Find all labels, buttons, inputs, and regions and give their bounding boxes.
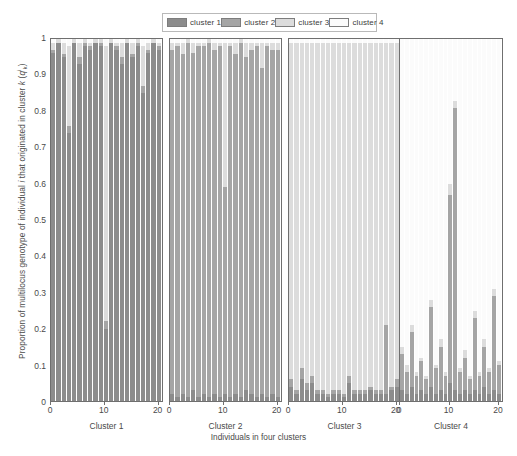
bar-segment-cluster-4 <box>434 39 438 365</box>
bar-segment-cluster-1 <box>270 394 274 401</box>
bar-segment-cluster-3 <box>310 43 314 376</box>
bar-segment-cluster-1 <box>497 394 501 401</box>
bar-segment-cluster-1 <box>99 46 103 401</box>
bar-segment-cluster-1 <box>294 394 298 401</box>
bar-segment-cluster-3 <box>326 43 330 394</box>
bar-segment-cluster-2 <box>487 372 491 394</box>
x-tick-label: 10 <box>444 405 453 415</box>
bar-segment-cluster-4 <box>405 39 409 365</box>
bar-segment-cluster-1 <box>218 397 222 401</box>
x-tick-label: 0 <box>167 405 172 415</box>
bar-segment-cluster-1 <box>207 397 211 401</box>
bar-segment-cluster-2 <box>239 43 243 398</box>
individual-bar[interactable] <box>276 39 281 401</box>
bar-segment-cluster-1 <box>151 43 155 401</box>
bar-segment-cluster-3 <box>482 339 486 346</box>
bar-segment-cluster-1 <box>492 390 496 401</box>
bar-segment-cluster-3 <box>77 43 81 57</box>
bar-segment-cluster-1 <box>415 394 419 401</box>
x-tick-mark <box>104 401 105 405</box>
structure-plot-figure: cluster 1 cluster 2 cluster 3 cluster 4 … <box>0 0 517 456</box>
bar-segment-cluster-3 <box>384 43 388 325</box>
bar-segment-cluster-2 <box>228 46 232 397</box>
x-tick-mark <box>288 401 289 405</box>
bar-segment-cluster-1 <box>191 390 195 401</box>
bar-segment-cluster-2 <box>244 57 248 390</box>
bar-segment-cluster-4 <box>468 39 472 376</box>
bar-segment-cluster-4 <box>444 39 448 372</box>
bar-segment-cluster-1 <box>109 43 113 401</box>
bar-segment-cluster-2 <box>67 126 71 133</box>
individual-bar[interactable] <box>157 39 162 401</box>
bar-segment-cluster-1 <box>77 64 81 401</box>
bar-segment-cluster-3 <box>181 43 185 54</box>
bar-segment-cluster-2 <box>429 307 433 387</box>
bar-segment-cluster-1 <box>239 397 243 401</box>
panel-title-2: Cluster 2 <box>208 421 242 431</box>
bar-segment-cluster-3 <box>400 347 404 354</box>
bar-segment-cluster-2 <box>497 365 501 394</box>
bar-segment-cluster-3 <box>331 43 335 391</box>
y-axis-label-sup-i: i <box>16 69 22 70</box>
bar-segment-cluster-2 <box>492 296 496 390</box>
bar-segment-cluster-2 <box>276 50 280 398</box>
bar-segment-cluster-1 <box>384 394 388 401</box>
bar-segment-cluster-1 <box>363 394 367 401</box>
bar-segment-cluster-3 <box>374 43 378 391</box>
bar-segment-cluster-1 <box>434 394 438 401</box>
bar-segment-cluster-3 <box>405 365 409 372</box>
legend-swatch-cluster-3 <box>275 18 295 27</box>
bar-segment-cluster-1 <box>337 394 341 401</box>
legend-entry-cluster-2[interactable]: cluster 2 <box>221 18 275 27</box>
panel-title-4: Cluster 4 <box>434 421 468 431</box>
bar-segment-cluster-1 <box>389 390 393 401</box>
bar-segment-cluster-2 <box>170 50 174 394</box>
bar-segment-cluster-1 <box>352 394 356 401</box>
x-tick-label: 10 <box>337 405 346 415</box>
bar-segment-cluster-1 <box>255 397 259 401</box>
bar-segment-cluster-1 <box>104 329 108 401</box>
bar-segment-cluster-1 <box>170 394 174 401</box>
bar-segment-cluster-2 <box>202 46 206 394</box>
bar-segment-cluster-1 <box>181 394 185 401</box>
bar-segment-cluster-1 <box>419 390 423 401</box>
bar-segment-cluster-3 <box>321 43 325 391</box>
legend-entry-cluster-1[interactable]: cluster 1 <box>167 18 221 27</box>
bar-segment-cluster-1 <box>473 390 477 401</box>
bar-segment-cluster-4 <box>453 39 457 101</box>
bar-segment-cluster-1 <box>453 390 457 401</box>
bar-segment-cluster-2 <box>478 376 482 394</box>
panel-title-3: Cluster 3 <box>327 421 361 431</box>
legend-entry-cluster-3[interactable]: cluster 3 <box>275 18 329 27</box>
bar-segment-cluster-1 <box>146 53 150 401</box>
bar-segment-cluster-1 <box>175 397 179 401</box>
bar-segment-cluster-3 <box>146 43 150 50</box>
bar-segment-cluster-3 <box>223 43 227 188</box>
legend-label-cluster-1: cluster 1 <box>190 18 221 27</box>
legend-entry-cluster-4[interactable]: cluster 4 <box>329 18 383 27</box>
bar-segment-cluster-2 <box>186 43 190 398</box>
individual-bar[interactable] <box>497 39 502 401</box>
bar-segment-cluster-1 <box>67 133 71 401</box>
bar-segment-cluster-1 <box>157 50 161 401</box>
bar-segment-cluster-2 <box>419 361 423 390</box>
bar-segment-cluster-3 <box>463 350 467 357</box>
bar-segment-cluster-2 <box>175 46 179 397</box>
bar-segment-cluster-4 <box>478 39 482 372</box>
bar-segment-cluster-3 <box>337 43 341 391</box>
bar-segment-cluster-2 <box>434 368 438 393</box>
bar-segment-cluster-3 <box>130 43 134 54</box>
bar-segment-cluster-2 <box>212 50 216 394</box>
bar-segment-cluster-3 <box>410 325 414 332</box>
bar-segment-cluster-1 <box>482 387 486 401</box>
bar-segment-cluster-3 <box>439 339 443 346</box>
legend-swatch-cluster-4 <box>329 18 349 27</box>
bar-segment-cluster-2 <box>249 50 253 394</box>
bar-segment-cluster-1 <box>487 394 491 401</box>
bar-segment-cluster-3 <box>170 43 174 50</box>
bar-segment-cluster-3 <box>448 184 452 195</box>
panel-4 <box>399 38 503 402</box>
bar-segment-cluster-1 <box>448 383 452 401</box>
bar-segment-cluster-1 <box>223 394 227 401</box>
bar-segment-cluster-2 <box>104 321 108 328</box>
